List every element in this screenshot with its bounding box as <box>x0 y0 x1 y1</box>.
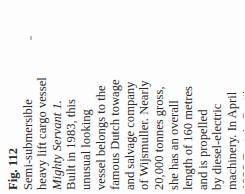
caption-line: of Wijsmuller. Nearly <box>137 0 152 190</box>
figure-label: Fig. 112 <box>6 0 21 190</box>
caption-line: famous Dutch towage <box>108 0 123 190</box>
vessel-name: Mighty Servant 1. <box>50 100 64 190</box>
caption-line: she has an overall <box>167 0 182 190</box>
caption-line: and salvage company <box>123 0 138 190</box>
document-page: Fig. 112 Semi-submersible heavy lift car… <box>0 0 244 194</box>
caption-line: and is propelled <box>196 0 211 190</box>
caption-line: Built in 1983, this <box>64 0 79 190</box>
caption-line: heavy lift cargo vessel <box>35 0 50 190</box>
caption-line: vessel belongs to the <box>94 0 109 190</box>
caption-line: unusual looking <box>79 0 94 190</box>
caption-line: length of 160 metres <box>181 0 196 190</box>
figure-caption: Fig. 112 Semi-submersible heavy lift car… <box>6 0 244 190</box>
caption-line: 20,000 tonnes gross, <box>152 0 167 190</box>
caption-line: Semi-submersible <box>21 0 36 190</box>
caption-line: by diesel-electric <box>210 0 225 190</box>
caption-line: machinery. In April <box>225 0 240 190</box>
caption-line: 1986 Captain Scott's <box>240 0 245 190</box>
